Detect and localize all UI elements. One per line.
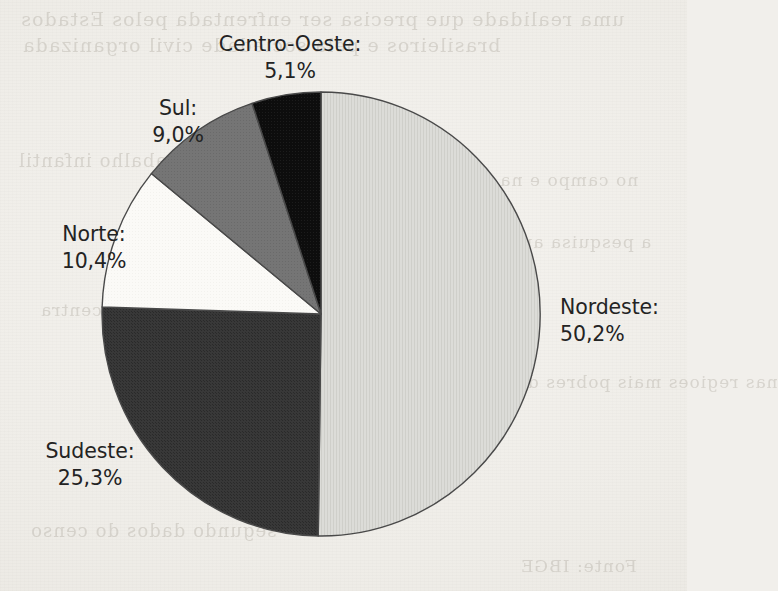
slice-label-norte: Norte: 10,4% bbox=[35, 221, 153, 274]
pie-slice-sudeste bbox=[102, 307, 321, 536]
pie-slice-nordeste bbox=[318, 92, 540, 536]
slice-label-centro-oeste-value: 5,1% bbox=[205, 58, 375, 85]
slice-label-centro-oeste-name: Centro-Oeste: bbox=[205, 31, 375, 58]
slice-label-sul-value: 9,0% bbox=[126, 122, 230, 149]
slice-label-nordeste-name: Nordeste: bbox=[560, 294, 695, 321]
slice-label-sul: Sul: 9,0% bbox=[126, 95, 230, 148]
slice-label-nordeste-value: 50,2% bbox=[560, 321, 695, 348]
slice-label-centro-oeste: Centro-Oeste: 5,1% bbox=[205, 31, 375, 84]
slice-label-sudeste-value: 25,3% bbox=[20, 465, 160, 492]
slice-label-sul-name: Sul: bbox=[126, 95, 230, 122]
slice-label-nordeste: Nordeste: 50,2% bbox=[560, 294, 695, 347]
slice-label-norte-name: Norte: bbox=[35, 221, 153, 248]
slice-label-sudeste: Sudeste: 25,3% bbox=[20, 438, 160, 491]
slice-label-sudeste-name: Sudeste: bbox=[20, 438, 160, 465]
slice-label-norte-value: 10,4% bbox=[35, 248, 153, 275]
